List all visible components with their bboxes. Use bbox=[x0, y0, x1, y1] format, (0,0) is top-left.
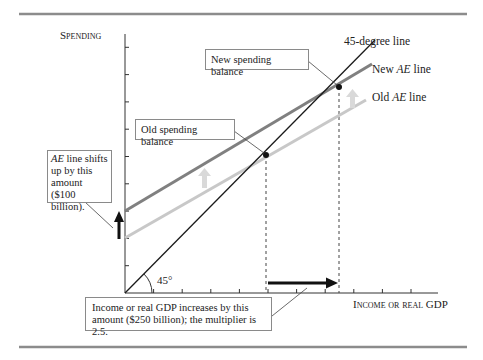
y-axis-label: Spending bbox=[60, 29, 101, 41]
new-spending-balance-callout: New spending balance bbox=[205, 49, 309, 70]
x-axis-label: Income or real GDP bbox=[353, 298, 448, 310]
45-degree-line bbox=[125, 40, 375, 293]
gdp-increase-callout: Income or real GDP increases by this amo… bbox=[85, 297, 272, 331]
45-degree-arc bbox=[144, 274, 152, 293]
angle-label: 45° bbox=[157, 274, 172, 286]
ae-shift-arrow bbox=[114, 211, 124, 239]
45-degree-line-label: 45-degree line bbox=[344, 35, 410, 48]
ae-italic: AE bbox=[51, 153, 64, 164]
old-spending-balance-callout: Old spending balance bbox=[135, 119, 235, 140]
gdp-increase-arrow bbox=[268, 278, 338, 289]
shift-arrow-mid bbox=[198, 168, 211, 188]
ae-shift-callout: AE line shifts up by this amount ($100 b… bbox=[47, 150, 112, 203]
y-ticks bbox=[125, 47, 129, 265]
x-ticks bbox=[154, 289, 411, 293]
new-balance-pointer bbox=[308, 61, 337, 85]
gdp-pointer bbox=[272, 288, 307, 316]
new-ae-line-label: New AE line bbox=[372, 63, 431, 75]
shift-pointer bbox=[85, 202, 113, 228]
old-ae-line-label: Old AE line bbox=[372, 91, 426, 103]
